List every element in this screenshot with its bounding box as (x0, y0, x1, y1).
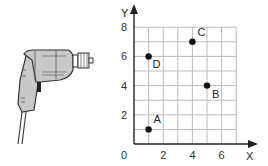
origin-label: 0 (121, 149, 127, 161)
point-label: A (154, 113, 162, 125)
point-label: B (212, 88, 219, 100)
scatter-plot: 02462468 ABCD X Y (0, 0, 268, 166)
y-axis-label: Y (121, 7, 129, 19)
point-label: C (197, 26, 205, 38)
x-axis-label: X (246, 150, 254, 162)
y-tick-label: 6 (121, 50, 127, 62)
y-tick-label: 4 (121, 80, 127, 92)
x-tick-label: 4 (189, 149, 195, 161)
point-b (204, 82, 210, 88)
point-label: D (153, 58, 161, 70)
x-tick-label: 2 (160, 149, 166, 161)
y-tick-label: 2 (121, 109, 127, 121)
point-c (189, 39, 195, 45)
y-tick-label: 8 (121, 21, 127, 33)
point-a (145, 126, 151, 132)
x-tick-label: 6 (219, 149, 225, 161)
point-d (145, 53, 151, 59)
